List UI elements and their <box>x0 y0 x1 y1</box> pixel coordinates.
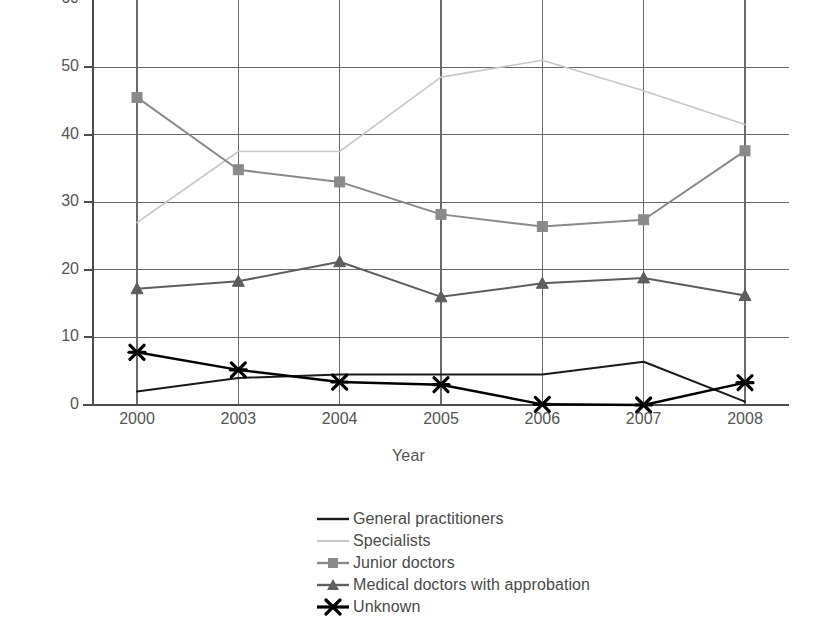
legend-swatch-triangle-icon <box>316 576 350 594</box>
plot-area: 0102030405060 20002003200420052006200720… <box>0 0 817 500</box>
x-tick-label: 2005 <box>401 410 481 428</box>
y-tick-label: 10 <box>33 327 79 345</box>
x-tick-label: 2004 <box>300 410 380 428</box>
marker-square <box>639 215 649 225</box>
marker-square <box>436 209 446 219</box>
legend-item-0[interactable]: General practitioners <box>316 508 786 530</box>
legend-label: Junior doctors <box>353 554 455 572</box>
legend-item-3[interactable]: Medical doctors with approbation <box>316 574 786 596</box>
legend-label: Specialists <box>353 532 431 550</box>
legend-label: Unknown <box>353 598 420 616</box>
marker-square <box>132 92 142 102</box>
x-tick-label: 2006 <box>502 410 582 428</box>
x-tick-label: 2007 <box>604 410 684 428</box>
y-tick-label: 50 <box>33 57 79 75</box>
legend-swatch-line-icon <box>316 510 350 528</box>
marker-triangle <box>334 256 346 267</box>
y-tick-label: 0 <box>33 395 79 413</box>
legend-item-1[interactable]: Specialists <box>316 530 786 552</box>
legend-label: Medical doctors with approbation <box>353 576 590 594</box>
y-tick-label: 60 <box>33 0 79 7</box>
y-tick-label: 20 <box>33 260 79 278</box>
y-tick-label: 30 <box>33 192 79 210</box>
legend-swatch-x-icon <box>316 598 350 616</box>
marker-square <box>233 165 243 175</box>
marker-square <box>335 177 345 187</box>
chart-legend: General practitionersSpecialistsJunior d… <box>316 508 786 618</box>
marker-square <box>537 222 547 232</box>
legend-item-2[interactable]: Junior doctors <box>316 552 786 574</box>
y-tick-label: 40 <box>33 125 79 143</box>
legend-label: General practitioners <box>353 510 504 528</box>
marker-square <box>740 146 750 156</box>
legend-swatch-square-icon <box>316 554 350 572</box>
chart-figure: Percentage Year 0102030405060 2000200320… <box>0 0 817 634</box>
x-tick-label: 2003 <box>198 410 278 428</box>
x-tick-label: 2008 <box>705 410 785 428</box>
x-tick-label: 2000 <box>97 410 177 428</box>
legend-item-4[interactable]: Unknown <box>316 596 786 618</box>
legend-swatch-line-icon <box>316 532 350 550</box>
